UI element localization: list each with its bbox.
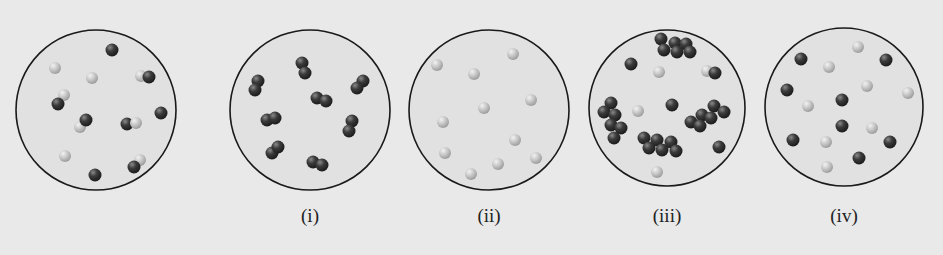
light-atom bbox=[439, 147, 451, 159]
dark-atom bbox=[836, 120, 849, 133]
dark-atom bbox=[658, 44, 671, 57]
light-atom bbox=[802, 100, 814, 112]
panel-label: (iii) bbox=[653, 205, 682, 227]
light-atom bbox=[852, 41, 864, 53]
light-atom bbox=[525, 94, 537, 106]
dark-atom bbox=[155, 107, 168, 120]
light-atom bbox=[431, 59, 443, 71]
dark-atom bbox=[299, 67, 312, 80]
container-iv bbox=[765, 28, 923, 186]
light-atom bbox=[478, 102, 490, 114]
dark-atom bbox=[106, 44, 119, 57]
dark-atom bbox=[643, 142, 656, 155]
dark-atom bbox=[608, 132, 621, 145]
dark-atom bbox=[670, 145, 683, 158]
dark-atom bbox=[343, 125, 356, 138]
dark-atom bbox=[269, 112, 282, 125]
dark-atom bbox=[272, 141, 285, 154]
dark-atom bbox=[781, 84, 794, 97]
dark-atom bbox=[705, 112, 718, 125]
light-atom bbox=[468, 68, 480, 80]
dark-atom bbox=[655, 33, 668, 46]
dark-atom bbox=[713, 141, 726, 154]
dark-atom bbox=[709, 67, 722, 80]
light-atom bbox=[507, 48, 519, 60]
panel-label: (ii) bbox=[477, 205, 500, 227]
dark-atom bbox=[625, 58, 638, 71]
dark-atom bbox=[694, 120, 707, 133]
light-atom bbox=[820, 136, 832, 148]
light-atom bbox=[530, 152, 542, 164]
dark-atom bbox=[316, 159, 329, 172]
light-atom bbox=[492, 158, 504, 170]
dark-atom bbox=[718, 106, 731, 119]
container-circle bbox=[765, 28, 923, 186]
dark-atom bbox=[656, 144, 669, 157]
dark-atom bbox=[880, 54, 893, 67]
light-atom bbox=[86, 72, 98, 84]
light-atom bbox=[49, 62, 61, 74]
dark-atom bbox=[787, 134, 800, 147]
light-atom bbox=[902, 87, 914, 99]
dark-atom bbox=[249, 84, 262, 97]
light-atom bbox=[437, 116, 449, 128]
dark-atom bbox=[671, 46, 684, 59]
container-i bbox=[230, 30, 390, 190]
light-atom bbox=[465, 168, 477, 180]
light-atom bbox=[651, 166, 663, 178]
dark-atom bbox=[684, 46, 697, 59]
dark-atom bbox=[52, 98, 65, 111]
light-atom bbox=[861, 80, 873, 92]
dark-atom bbox=[853, 152, 866, 165]
container-ii bbox=[409, 30, 569, 190]
container-reference bbox=[16, 30, 176, 190]
dark-atom bbox=[143, 71, 156, 84]
light-atom bbox=[59, 150, 71, 162]
container-circle bbox=[16, 30, 176, 190]
dark-atom bbox=[80, 114, 93, 127]
dark-atom bbox=[351, 82, 364, 95]
panel-label: (iv) bbox=[830, 205, 857, 227]
dark-atom bbox=[320, 95, 333, 108]
particle-diagram bbox=[0, 0, 943, 255]
light-atom bbox=[130, 117, 142, 129]
dark-atom bbox=[598, 106, 611, 119]
dark-atom bbox=[666, 99, 679, 112]
light-atom bbox=[823, 61, 835, 73]
light-atom bbox=[632, 105, 644, 117]
light-atom bbox=[653, 66, 665, 78]
light-atom bbox=[821, 161, 833, 173]
light-atom bbox=[866, 122, 878, 134]
dark-atom bbox=[128, 161, 141, 174]
panel-label: (i) bbox=[301, 205, 319, 227]
dark-atom bbox=[89, 169, 102, 182]
dark-atom bbox=[836, 94, 849, 107]
container-iii bbox=[589, 30, 745, 186]
light-atom bbox=[509, 134, 521, 146]
dark-atom bbox=[884, 136, 897, 149]
dark-atom bbox=[795, 53, 808, 66]
